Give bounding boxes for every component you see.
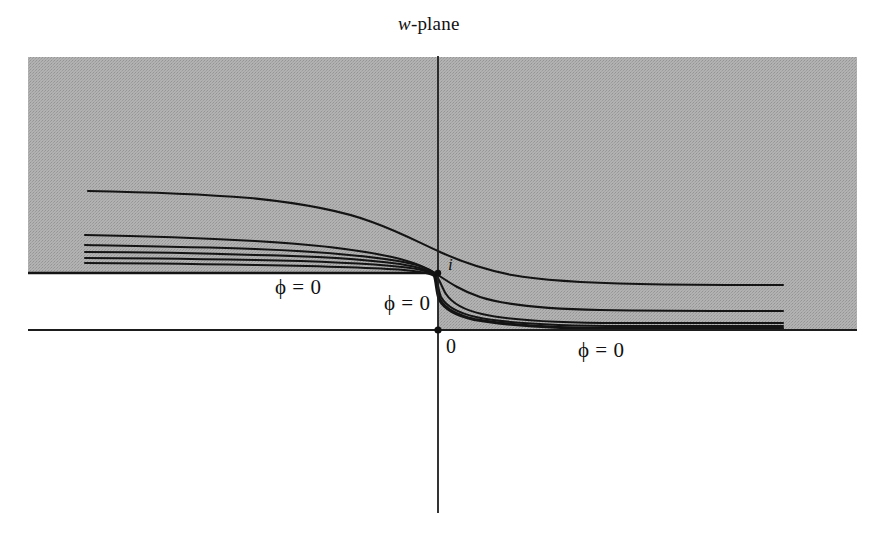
origin-label: 0 — [446, 336, 456, 356]
plane-title-rest: -plane — [411, 13, 460, 34]
w-plane-diagram — [0, 0, 886, 543]
phi-zero-left: ϕ = 0 — [275, 277, 321, 298]
imaginary-unit-label: i — [448, 256, 453, 273]
phi-zero-right: ϕ = 0 — [578, 340, 624, 361]
plane-title-italic: w — [398, 13, 411, 34]
figure-canvas: w-plane ϕ = 0 ϕ = 0 ϕ = 0 0 i — [0, 0, 886, 543]
plane-title: w-plane — [398, 14, 460, 33]
phi-zero-middle: ϕ = 0 — [384, 293, 430, 314]
corner-point-marker — [435, 270, 441, 276]
origin-point-marker — [434, 326, 441, 333]
